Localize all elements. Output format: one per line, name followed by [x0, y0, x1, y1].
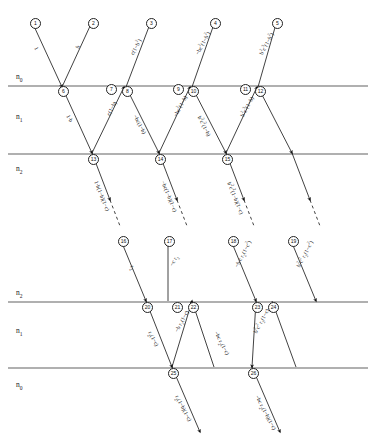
ray-node-10: 10 — [188, 86, 199, 97]
ray-node-7: 7 — [106, 84, 117, 95]
ray-node-15: 15 — [222, 154, 233, 165]
ray-node-4: 4 — [210, 18, 221, 29]
ray-node-14: 14 — [155, 154, 166, 165]
ray-node-3: 3 — [146, 18, 157, 29]
ray-paths — [0, 0, 374, 439]
ray-node-18: 18 — [228, 236, 239, 247]
ray-node-20: 20 — [142, 302, 153, 313]
ray-node-17: 17 — [164, 236, 175, 247]
ray-node-1: 1 — [30, 18, 41, 29]
ray-node-6: 6 — [58, 86, 69, 97]
medium-label-n2-top: n2 — [16, 164, 23, 175]
medium-label-n1-bottom: n1 — [16, 326, 23, 337]
ray-node-26: 26 — [248, 368, 259, 379]
ray-node-5: 5 — [272, 18, 283, 29]
ray-node-19: 19 — [288, 236, 299, 247]
ray-node-21: 21 — [172, 302, 183, 313]
ray-node-11: 11 — [240, 84, 251, 95]
ray-node-25: 25 — [168, 368, 179, 379]
medium-label-n1-top: n1 — [16, 112, 23, 123]
medium-label-n0-bottom: n0 — [16, 380, 23, 391]
medium-label-n0-top: n0 — [16, 72, 23, 83]
medium-label-n2-bottom: n2 — [16, 288, 23, 299]
ray-node-8: 8 — [122, 86, 133, 97]
ray-node-12: 12 — [255, 86, 266, 97]
ray-node-13: 13 — [88, 154, 99, 165]
ray-node-16: 16 — [118, 236, 129, 247]
ray-node-2: 2 — [88, 18, 99, 29]
ray-diagram-figure: n0 n1 n2 n2 n1 n0 1234567891011121314151… — [0, 0, 374, 439]
